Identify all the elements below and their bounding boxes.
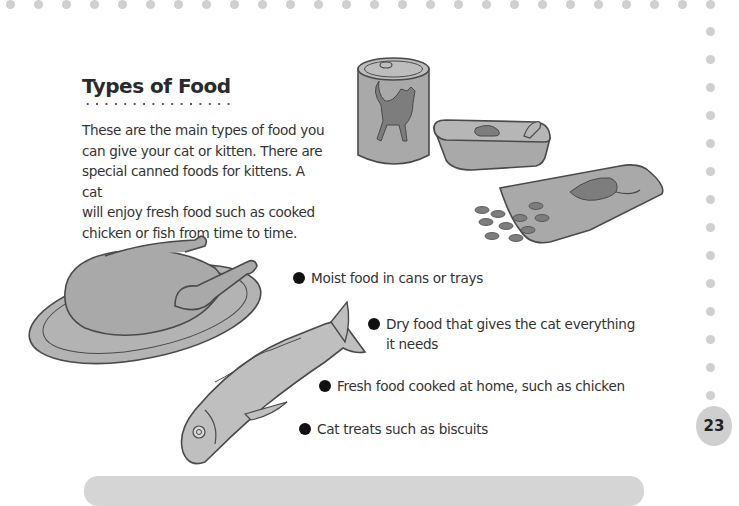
border-dot	[34, 0, 43, 9]
intro-paragraph: These are the main types of food you can…	[82, 120, 327, 243]
border-dot	[538, 0, 547, 9]
bullet-text: it needs	[386, 336, 438, 352]
cat-food-can-illustration	[355, 55, 435, 170]
intro-line: special canned foods for kittens. A cat	[82, 163, 305, 200]
border-dot	[174, 0, 183, 9]
border-dot	[706, 83, 715, 92]
border-dot	[706, 195, 715, 204]
border-dot	[118, 0, 127, 9]
border-dot	[230, 0, 239, 9]
border-dot	[706, 391, 715, 400]
bullet-text: Moist food in cans or trays	[311, 270, 483, 286]
border-dot	[258, 0, 267, 9]
intro-line: These are the main types of food you	[82, 122, 324, 138]
border-dot	[426, 0, 435, 9]
border-dot	[622, 0, 631, 9]
border-dot	[566, 0, 575, 9]
border-dot	[510, 0, 519, 9]
bullet-dot-icon	[299, 423, 311, 435]
title-dotted-underline	[83, 103, 233, 105]
border-dot	[342, 0, 351, 9]
border-dot	[706, 111, 715, 120]
bullet-dot-icon	[293, 272, 305, 284]
border-dot	[706, 27, 715, 36]
bullet-text: Cat treats such as biscuits	[317, 421, 488, 437]
border-dot	[370, 0, 379, 9]
border-dot	[706, 167, 715, 176]
border-dot	[706, 55, 715, 64]
border-dot	[706, 251, 715, 260]
border-dot	[594, 0, 603, 9]
border-dot	[650, 0, 659, 9]
border-dot	[706, 307, 715, 316]
border-dot	[398, 0, 407, 9]
bottom-banner	[84, 476, 644, 506]
bullet-item-cat-treats: Cat treats such as biscuits	[317, 419, 488, 439]
border-dot	[482, 0, 491, 9]
section-title: Types of Food	[82, 74, 231, 98]
page-number-badge: 23	[696, 406, 732, 446]
bullet-text: Dry food that gives the cat everything	[386, 316, 635, 332]
bullet-item-moist-food: Moist food in cans or trays	[311, 268, 483, 288]
border-dot	[454, 0, 463, 9]
border-dot	[6, 0, 15, 9]
bullet-text: Fresh food cooked at home, such as chick…	[337, 378, 625, 394]
border-dot	[706, 363, 715, 372]
bullet-dot-icon	[368, 318, 380, 330]
bullet-item-fresh-food: Fresh food cooked at home, such as chick…	[337, 376, 625, 396]
border-dot	[706, 279, 715, 288]
border-dot	[146, 0, 155, 9]
bullet-dot-icon	[319, 380, 331, 392]
intro-line: will enjoy fresh food such as cooked	[82, 204, 315, 220]
border-dot	[90, 0, 99, 9]
border-dot	[706, 335, 715, 344]
border-dot	[202, 0, 211, 9]
bullet-item-dry-food: Dry food that gives the cat everything i…	[386, 314, 635, 354]
border-dot	[314, 0, 323, 9]
border-dot	[62, 0, 71, 9]
border-dot	[706, 0, 715, 9]
intro-line: can give your cat or kitten. There are	[82, 143, 322, 159]
border-dot	[286, 0, 295, 9]
border-dot	[706, 223, 715, 232]
border-dot	[678, 0, 687, 9]
dry-food-bag-illustration	[470, 160, 670, 250]
border-dot	[706, 139, 715, 148]
